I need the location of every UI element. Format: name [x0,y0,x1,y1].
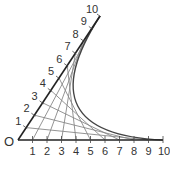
slant-label: 5 [48,65,54,77]
origin-label: O [4,134,14,149]
base-label: 5 [88,145,94,157]
slant-label: 8 [73,28,79,40]
base-label: 6 [102,145,108,157]
base-label: 8 [131,145,137,157]
string-art-diagram: 1122334455667788991010 O [0,0,170,169]
slant-label: 1 [15,115,21,127]
slant-label: 4 [40,77,46,89]
base-label: 1 [30,145,36,157]
base-label: 10 [158,145,170,157]
base-label: 2 [44,145,50,157]
slant-label: 2 [23,102,29,114]
base-label: 9 [146,145,152,157]
string-line [47,41,84,140]
slant-label: 10 [86,3,98,15]
slant-label: 3 [32,90,38,102]
base-label: 4 [73,145,79,157]
envelope-curve [73,16,163,140]
slant-label: 9 [81,15,87,27]
base-label: 3 [59,145,65,157]
slant-label: 7 [64,40,70,52]
base-label: 7 [117,145,123,157]
string-line [62,53,76,140]
slant-label: 6 [56,53,62,65]
